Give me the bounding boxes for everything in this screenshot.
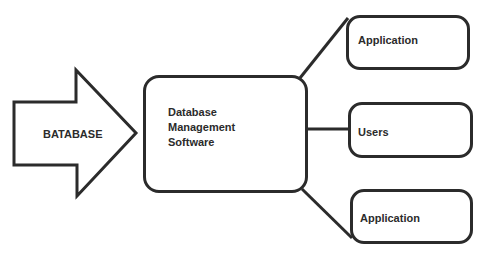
source-arrow-label: BATABASE: [43, 127, 102, 142]
target-box-application-bottom: Application: [350, 189, 473, 244]
target-label: Application: [360, 211, 420, 226]
center-box-line-1: Database: [168, 105, 235, 120]
target-box-users: Users: [348, 102, 473, 158]
connector-bottom: [302, 189, 352, 238]
center-box: Database Management Software: [143, 75, 308, 193]
center-box-line-3: Software: [168, 135, 235, 150]
center-box-line-2: Management: [168, 120, 235, 135]
connector-top: [300, 18, 348, 78]
target-label: Application: [358, 33, 418, 48]
target-box-application-top: Application: [346, 15, 470, 70]
target-label: Users: [358, 125, 389, 140]
